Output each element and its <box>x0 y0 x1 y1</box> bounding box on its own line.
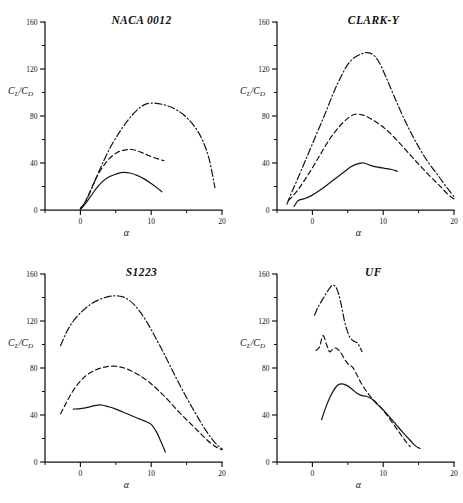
y-tick-label: 0 <box>34 206 38 215</box>
axis-spines <box>45 22 222 210</box>
curve-solid <box>322 384 420 449</box>
x-axis-ticks: 01020 <box>277 210 458 226</box>
x-tick-label: 0 <box>311 217 315 226</box>
panel-title: UF <box>365 266 382 278</box>
x-tick-label: 20 <box>450 469 458 478</box>
x-axis-label: α <box>356 227 362 238</box>
chart-panel-s1223: 0408012016001020S1223CL/CDα <box>0 252 231 503</box>
y-axis-label: CL/CD <box>8 337 33 350</box>
y-axis-ticks: 04080120160 <box>26 18 45 215</box>
x-tick-label: 20 <box>218 469 226 478</box>
y-tick-label: 80 <box>262 364 270 373</box>
x-tick-label: 10 <box>379 469 387 478</box>
chart-svg: 0408012016001020CLARK-YCL/CDα <box>232 0 463 251</box>
y-tick-label: 80 <box>30 112 38 121</box>
airfoil-performance-figure: 0408012016001020NACA 0012CL/CDα 04080120… <box>0 0 463 503</box>
curve-solid <box>80 172 161 209</box>
y-tick-label: 40 <box>262 159 270 168</box>
y-tick-label: 40 <box>30 411 38 420</box>
curve-dashed <box>316 336 410 447</box>
x-axis-label: α <box>356 479 362 490</box>
panel-title: S1223 <box>126 266 157 278</box>
y-tick-label: 0 <box>266 206 270 215</box>
y-axis-ticks: 04080120160 <box>26 270 45 467</box>
x-axis-label: α <box>124 227 130 238</box>
chart-svg: 0408012016001020S1223CL/CDα <box>0 252 231 503</box>
x-tick-label: 10 <box>147 217 155 226</box>
chart-panel-uf: 0408012016001020UFCL/CDα <box>232 252 463 503</box>
panel-title: NACA 0012 <box>110 14 171 26</box>
x-axis-ticks: 01020 <box>277 462 458 478</box>
x-tick-label: 10 <box>147 469 155 478</box>
axis-spines <box>277 274 454 462</box>
y-tick-label: 160 <box>258 18 270 27</box>
x-tick-label: 0 <box>79 469 83 478</box>
data-curves <box>287 53 454 207</box>
x-axis-label: α <box>124 479 130 490</box>
y-tick-label: 120 <box>258 317 270 326</box>
y-axis-ticks: 04080120160 <box>258 18 277 215</box>
y-tick-label: 160 <box>258 270 270 279</box>
x-tick-label: 10 <box>379 217 387 226</box>
y-tick-label: 120 <box>26 317 38 326</box>
curve-dashdot <box>61 296 222 449</box>
panel-title: CLARK-Y <box>348 14 400 26</box>
data-curves <box>61 296 222 452</box>
y-tick-label: 80 <box>262 112 270 121</box>
chart-panel-clark-y: 0408012016001020CLARK-YCL/CDα <box>232 0 463 251</box>
axis-spines <box>45 274 222 462</box>
curve-dashdot <box>315 285 362 351</box>
y-tick-label: 120 <box>258 65 270 74</box>
curve-solid <box>294 163 397 207</box>
y-tick-label: 0 <box>266 458 270 467</box>
x-tick-label: 20 <box>218 217 226 226</box>
y-tick-label: 160 <box>26 270 38 279</box>
y-tick-label: 80 <box>30 364 38 373</box>
curve-dashdot <box>287 53 454 205</box>
y-axis-label: CL/CD <box>240 337 265 350</box>
x-axis-ticks: 01020 <box>45 210 226 226</box>
x-tick-label: 20 <box>450 217 458 226</box>
chart-svg: 0408012016001020NACA 0012CL/CDα <box>0 0 231 251</box>
data-curves <box>80 103 215 209</box>
y-tick-label: 0 <box>34 458 38 467</box>
chart-svg: 0408012016001020UFCL/CDα <box>232 252 463 503</box>
data-curves <box>315 285 421 448</box>
y-tick-label: 40 <box>30 159 38 168</box>
y-axis-label: CL/CD <box>240 85 265 98</box>
chart-panel-naca-0012: 0408012016001020NACA 0012CL/CDα <box>0 0 231 251</box>
x-tick-label: 0 <box>79 217 83 226</box>
y-tick-label: 120 <box>26 65 38 74</box>
y-tick-label: 40 <box>262 411 270 420</box>
curve-solid <box>73 405 165 452</box>
curve-dashed <box>288 114 454 201</box>
y-axis-label: CL/CD <box>8 85 33 98</box>
y-axis-ticks: 04080120160 <box>258 270 277 467</box>
y-tick-label: 160 <box>26 18 38 27</box>
x-tick-label: 0 <box>311 469 315 478</box>
x-axis-ticks: 01020 <box>45 462 226 478</box>
curve-dashed <box>80 149 164 208</box>
